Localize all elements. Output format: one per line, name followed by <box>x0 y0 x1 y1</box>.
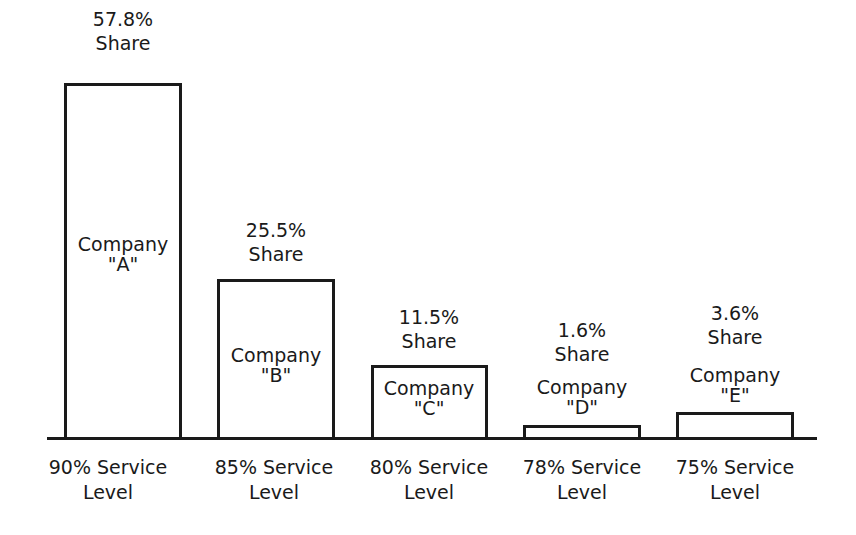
share-label-b: 25.5% Share <box>196 218 356 266</box>
share-caption: Share <box>196 242 356 266</box>
share-value: 11.5% <box>349 305 509 329</box>
share-caption: Share <box>349 329 509 353</box>
bar-company-d <box>523 425 641 440</box>
company-letter: "E" <box>655 383 815 407</box>
share-label-e: 3.6% Share <box>655 301 815 349</box>
level-line2: Level <box>502 480 662 505</box>
company-letter: "C" <box>349 396 509 420</box>
bar-company-e <box>676 412 794 440</box>
level-line1: 90% Service <box>28 455 188 480</box>
level-line2: Level <box>655 480 815 505</box>
x-tick-label-d: 78% Service Level <box>502 455 662 505</box>
level-line2: Level <box>194 480 354 505</box>
company-label-e: Company "E" <box>655 363 815 407</box>
level-line1: 80% Service <box>349 455 509 480</box>
company-label-a: Company "A" <box>43 232 203 276</box>
market-share-bar-chart: 57.8% Share Company "A" 90% Service Leve… <box>0 0 856 535</box>
level-line2: Level <box>28 480 188 505</box>
level-line1: 85% Service <box>194 455 354 480</box>
company-letter: "A" <box>43 252 203 276</box>
share-caption: Share <box>655 325 815 349</box>
x-tick-label-e: 75% Service Level <box>655 455 815 505</box>
share-label-d: 1.6% Share <box>502 318 662 366</box>
share-label-c: 11.5% Share <box>349 305 509 353</box>
share-label-a: 57.8% Share <box>43 7 203 55</box>
level-line1: 75% Service <box>655 455 815 480</box>
level-line1: 78% Service <box>502 455 662 480</box>
x-tick-label-a: 90% Service Level <box>28 455 188 505</box>
company-label-b: Company "B" <box>196 343 356 387</box>
share-value: 1.6% <box>502 318 662 342</box>
company-label-c: Company "C" <box>349 376 509 420</box>
share-value: 57.8% <box>43 7 203 31</box>
company-letter: "D" <box>502 395 662 419</box>
company-letter: "B" <box>196 363 356 387</box>
x-tick-label-b: 85% Service Level <box>194 455 354 505</box>
share-caption: Share <box>43 31 203 55</box>
x-tick-label-c: 80% Service Level <box>349 455 509 505</box>
share-caption: Share <box>502 342 662 366</box>
share-value: 25.5% <box>196 218 356 242</box>
share-value: 3.6% <box>655 301 815 325</box>
level-line2: Level <box>349 480 509 505</box>
company-label-d: Company "D" <box>502 375 662 419</box>
